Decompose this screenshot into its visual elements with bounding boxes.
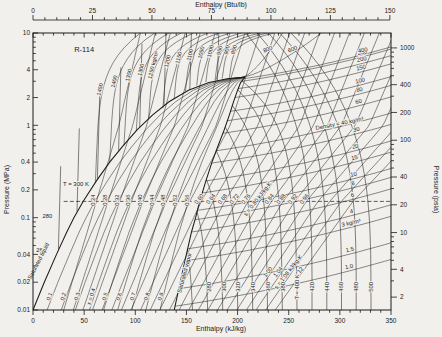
svg-text:1000: 1000 [206,44,215,58]
svg-text:360: 360 [265,282,271,292]
svg-text:380: 380 [280,282,286,292]
svg-text:1450: 1450 [95,83,104,97]
svg-text:0: 0 [31,317,35,324]
svg-text:250: 250 [283,317,294,324]
svg-text:1250 kg/m³: 1250 kg/m³ [147,51,160,80]
svg-text:0.44: 0.44 [149,194,155,206]
svg-text:15: 15 [351,154,359,161]
svg-text:0.24: 0.24 [90,194,96,206]
ph-diagram-figure: Enthalpy (Btu/lb) Enthalpy (kJ/kg) Press… [0,0,442,337]
svg-text:850: 850 [230,44,238,55]
svg-text:50: 50 [148,7,156,14]
svg-text:1050: 1050 [197,46,206,60]
svg-text:400: 400 [400,81,411,88]
svg-text:100: 100 [265,7,276,14]
svg-text:3 kg/m³: 3 kg/m³ [341,218,361,228]
svg-text:0.56: 0.56 [184,194,190,205]
svg-text:0.3: 0.3 [73,292,81,301]
svg-text:0.36: 0.36 [125,194,131,205]
svg-text:0.02: 0.02 [17,278,30,285]
svg-text:4: 4 [26,66,30,73]
svg-text:10: 10 [23,29,31,36]
svg-text:R-114: R-114 [74,45,94,54]
svg-text:350: 350 [386,317,397,324]
svg-text:0.2: 0.2 [21,186,30,193]
svg-text:480: 480 [353,282,359,292]
svg-text:0.32: 0.32 [114,194,120,205]
svg-text:200: 200 [400,109,411,116]
svg-text:0.2: 0.2 [59,292,67,301]
svg-text:150: 150 [181,317,192,324]
svg-text:280: 280 [42,213,52,219]
svg-text:1400: 1400 [110,75,119,89]
svg-text:320: 320 [235,282,241,292]
svg-text:20: 20 [351,143,359,150]
svg-text:60: 60 [355,98,363,105]
svg-text:1.5: 1.5 [345,246,354,254]
svg-text:420: 420 [309,282,315,292]
svg-text:100: 100 [400,136,411,143]
svg-text:300: 300 [334,317,345,324]
svg-text:0.01: 0.01 [17,306,30,313]
svg-text:1.0: 1.0 [344,263,353,271]
svg-text:1000: 1000 [400,44,415,51]
svg-text:460: 460 [338,282,344,292]
svg-text:0.52: 0.52 [172,194,178,205]
svg-text:0.28: 0.28 [102,194,108,205]
svg-text:0.6: 0.6 [115,292,123,301]
svg-text:0: 0 [31,7,35,14]
svg-text:10: 10 [350,171,358,178]
svg-text:80: 80 [356,86,364,93]
svg-text:125: 125 [325,7,336,14]
svg-text:20: 20 [400,201,408,208]
svg-text:0.64: 0.64 [205,192,217,205]
svg-text:1300: 1300 [136,63,145,77]
svg-text:75: 75 [208,7,216,14]
ph-chart-canvas: 0.240.280.320.360.400.440.480.520.560.60… [0,0,442,337]
svg-text:6: 6 [350,192,354,199]
svg-text:100: 100 [355,77,366,85]
svg-text:500: 500 [368,282,374,292]
svg-text:30: 30 [353,126,361,133]
svg-text:150: 150 [356,64,367,72]
svg-text:0.60: 0.60 [193,193,205,206]
svg-text:440: 440 [324,282,330,292]
svg-text:4: 4 [400,266,404,273]
svg-text:25: 25 [89,7,97,14]
svg-text:T = 400 K: T = 400 K [294,274,300,299]
curve-labels-group: 0.240.280.320.360.400.440.480.520.560.60… [27,44,374,305]
svg-text:0.9: 0.9 [157,292,165,301]
svg-text:0.04: 0.04 [17,251,30,258]
svg-text:8: 8 [351,180,355,187]
svg-text:40: 40 [400,173,408,180]
svg-text:300: 300 [221,282,227,292]
svg-text:0.40: 0.40 [137,194,143,205]
svg-text:2: 2 [400,293,404,300]
svg-text:150: 150 [384,7,395,14]
svg-text:0.1: 0.1 [45,292,53,301]
svg-text:T = 300 K: T = 300 K [63,181,89,187]
svg-text:1350: 1350 [124,68,133,82]
svg-text:0.4: 0.4 [21,158,30,165]
svg-text:0.48: 0.48 [160,194,166,205]
svg-text:100: 100 [130,317,141,324]
svg-text:0.8: 0.8 [143,292,151,301]
svg-text:1: 1 [26,122,30,129]
svg-text:0.5: 0.5 [101,292,109,301]
svg-text:200: 200 [232,317,243,324]
svg-text:340: 340 [250,282,256,292]
svg-text:10: 10 [400,229,408,236]
svg-text:280: 280 [206,282,212,292]
svg-text:0.1: 0.1 [21,214,30,221]
svg-text:800: 800 [262,44,273,54]
svg-text:50: 50 [81,317,89,324]
svg-text:2: 2 [26,94,30,101]
